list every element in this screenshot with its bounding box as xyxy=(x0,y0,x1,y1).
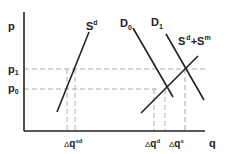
x-axis-label: q xyxy=(209,137,216,149)
delta-qd-label: Δqd xyxy=(145,138,160,149)
sd-label: Sd xyxy=(86,19,98,32)
d0-label: D0 xyxy=(120,17,132,31)
delta-qsd-label: Δqsd xyxy=(64,138,83,149)
total-supply-curve xyxy=(141,56,198,113)
p0-label: p0 xyxy=(8,82,19,95)
p1-label: p1 xyxy=(8,63,19,76)
d1-label: D1 xyxy=(151,16,163,30)
supply-demand-diagram: p p1 p0 Sd D0 D1 Sd+Sm Δqsd Δqd Δqs q xyxy=(0,0,230,154)
delta-qs-label: Δqs xyxy=(169,138,184,149)
sd-plus-sm-label: Sd+Sm xyxy=(178,34,211,47)
guide-lines xyxy=(24,69,208,131)
domestic-supply-curve xyxy=(57,32,89,112)
axes xyxy=(24,12,205,131)
y-axis-label: p xyxy=(8,20,15,32)
